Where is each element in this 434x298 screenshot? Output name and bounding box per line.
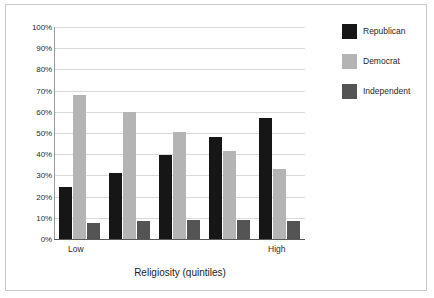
y-axis-tick-label: 80%: [8, 65, 52, 74]
bar-group: [205, 27, 255, 239]
bar-group: [255, 27, 305, 239]
bar-democrat[interactable]: [223, 151, 236, 239]
x-axis-line: [54, 239, 305, 240]
legend-item[interactable]: Independent: [342, 83, 434, 100]
legend-item[interactable]: Republican: [342, 23, 434, 40]
legend-label: Independent: [363, 86, 410, 96]
bar-republican[interactable]: [259, 118, 272, 239]
bar-democrat[interactable]: [123, 112, 136, 239]
bar-democrat[interactable]: [73, 95, 86, 239]
bar-independent[interactable]: [137, 221, 150, 239]
x-axis-title: Religiosity (quintiles): [55, 267, 305, 278]
bar-democrat[interactable]: [273, 169, 286, 239]
chart-legend: RepublicanDemocratIndependent: [342, 23, 434, 113]
bar-republican[interactable]: [59, 187, 72, 239]
legend-swatch-icon: [342, 24, 357, 39]
y-axis-tick-label: 0%: [8, 235, 52, 244]
bar-group: [155, 27, 205, 239]
y-axis-tick-label: 10%: [8, 213, 52, 222]
bar-group: [105, 27, 155, 239]
y-axis-tick-label: 20%: [8, 192, 52, 201]
bar-independent[interactable]: [237, 220, 250, 239]
bar-independent[interactable]: [187, 220, 200, 239]
legend-item[interactable]: Democrat: [342, 53, 434, 70]
bar-independent[interactable]: [287, 221, 300, 239]
bar-group: [55, 27, 105, 239]
plot-area: [55, 27, 305, 239]
x-axis-label-low: Low: [68, 244, 84, 254]
bar-democrat[interactable]: [173, 132, 186, 239]
x-axis-label-high: High: [268, 244, 285, 254]
y-axis-tick-label: 70%: [8, 86, 52, 95]
chart-container: 0%10%20%30%40%50%60%70%80%90%100% Low Hi…: [5, 4, 427, 291]
bar-republican[interactable]: [109, 173, 122, 239]
y-axis-tick-label: 60%: [8, 107, 52, 116]
legend-swatch-icon: [342, 84, 357, 99]
y-axis-tick-label: 40%: [8, 150, 52, 159]
legend-swatch-icon: [342, 54, 357, 69]
y-axis-tick-label: 90%: [8, 44, 52, 53]
y-axis-tick-label: 50%: [8, 129, 52, 138]
legend-label: Democrat: [363, 56, 400, 66]
y-axis-tick-label: 30%: [8, 171, 52, 180]
bar-republican[interactable]: [209, 137, 222, 239]
bar-independent[interactable]: [87, 223, 100, 239]
legend-label: Republican: [363, 26, 406, 36]
bar-republican[interactable]: [159, 155, 172, 239]
bar-series-layer: [55, 27, 305, 239]
y-axis-tick-label: 100%: [8, 23, 52, 32]
y-axis-tick-labels: 0%10%20%30%40%50%60%70%80%90%100%: [6, 27, 52, 239]
